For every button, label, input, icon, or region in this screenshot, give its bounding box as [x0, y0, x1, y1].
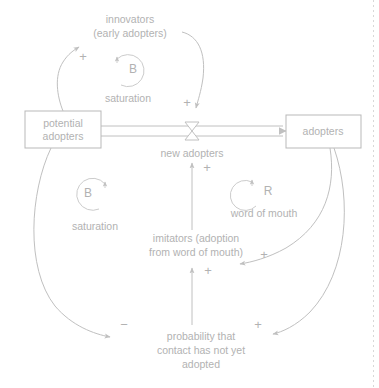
diagram-canvas: potential adopters adopters new adopters… — [0, 0, 379, 388]
sign-adopters-to-probability: + — [254, 317, 262, 332]
sign-potential-to-innovators: + — [79, 49, 87, 64]
loop-letter-saturation-bottom: B — [84, 186, 92, 200]
loop-name-saturation-bottom: saturation — [72, 220, 118, 232]
aux-label-innovators-line1: innovators — [106, 13, 154, 25]
aux-label-probability-line2: contact has not yet — [157, 344, 245, 356]
sign-imitators-to-flow: + — [203, 160, 211, 175]
right-edge-dotted-rule — [373, 0, 374, 388]
flow-valve-icon — [185, 122, 199, 140]
aux-label-probability-line3: adopted — [182, 358, 220, 370]
flow-label-new-adopters: new adopters — [160, 147, 223, 159]
loop-letter-saturation-top: B — [129, 62, 137, 76]
sign-adopters-to-imitators: + — [260, 247, 268, 262]
link-potential-to-innovators — [57, 47, 79, 111]
aux-label-innovators-line2: (early adopters) — [93, 27, 167, 39]
loop-letter-word-of-mouth: R — [264, 184, 273, 198]
aux-label-imitators-line2: from word of mouth) — [149, 246, 243, 258]
aux-label-probability-line1: probability that — [167, 330, 235, 342]
loop-name-word-of-mouth: word of mouth — [230, 207, 298, 219]
sign-potential-to-probability: − — [120, 317, 128, 332]
link-adopters-to-probability — [273, 148, 344, 334]
aux-label-imitators-line1: imitators (adoption — [153, 232, 240, 244]
stock-label-potential-adopters-line1: potential — [43, 117, 83, 129]
stock-label-potential-adopters-line2: adopters — [43, 130, 84, 142]
sign-innovators-to-flow: + — [183, 95, 191, 110]
link-potential-to-probability — [34, 148, 110, 337]
stock-label-adopters: adopters — [303, 125, 344, 137]
sign-probability-to-imitators: + — [204, 263, 212, 278]
causal-loop-diagram: potential adopters adopters new adopters… — [0, 0, 379, 388]
loop-name-saturation-top: saturation — [105, 92, 151, 104]
